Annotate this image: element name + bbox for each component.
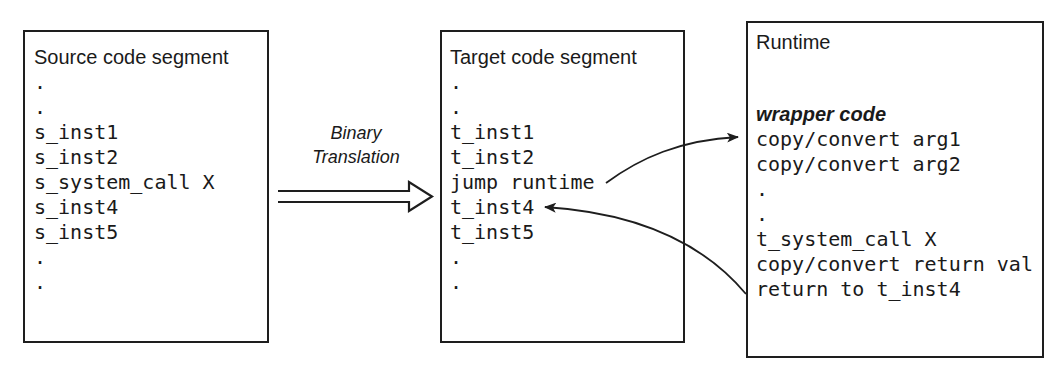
arrows-overlay [0,0,1064,373]
binary-translation-arrow-icon [278,182,432,211]
jump-to-runtime-arrow-icon [606,137,738,183]
return-to-target-arrow-icon [545,207,746,294]
